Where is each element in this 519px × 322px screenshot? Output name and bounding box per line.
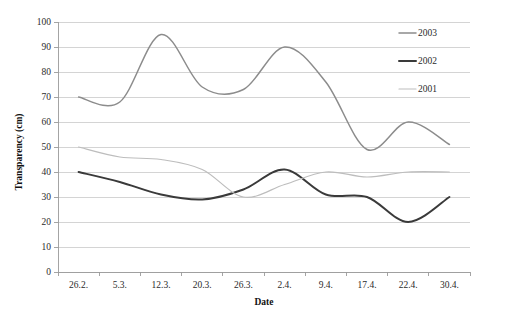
series-group bbox=[79, 34, 450, 222]
x-tick-label: 20.3. bbox=[193, 280, 212, 290]
series-line-2003 bbox=[79, 34, 450, 150]
y-tick-label: 80 bbox=[42, 67, 52, 77]
x-tick-label: 22.4. bbox=[399, 280, 418, 290]
y-tick-marks-group bbox=[54, 22, 58, 272]
x-tick-label: 5.3. bbox=[113, 280, 127, 290]
x-tick-label: 12.3. bbox=[152, 280, 171, 290]
gridlines-group bbox=[58, 22, 470, 272]
y-axis-title: Transparency (cm) bbox=[14, 114, 25, 191]
x-tick-labels-group: 26.2.5.3.12.3.20.3.26.3.2.4.9.4.17.4.22.… bbox=[69, 280, 459, 290]
y-tick-label: 60 bbox=[42, 117, 52, 127]
legend-label-2002: 2002 bbox=[418, 56, 437, 66]
y-tick-label: 50 bbox=[42, 142, 52, 152]
y-tick-label: 20 bbox=[42, 217, 52, 227]
y-tick-label: 10 bbox=[42, 242, 52, 252]
x-tick-label: 26.2. bbox=[69, 280, 88, 290]
legend-label-2001: 2001 bbox=[418, 84, 437, 94]
x-axis-title: Date bbox=[255, 297, 274, 307]
x-tick-label: 9.4. bbox=[319, 280, 333, 290]
y-tick-label: 40 bbox=[42, 167, 52, 177]
legend-label-2003: 2003 bbox=[418, 28, 437, 38]
x-tick-label: 26.3. bbox=[234, 280, 253, 290]
y-tick-label: 0 bbox=[46, 267, 51, 277]
x-axis-group bbox=[58, 272, 470, 276]
y-tick-label: 30 bbox=[42, 192, 52, 202]
y-tick-label: 90 bbox=[42, 42, 52, 52]
legend-group: 200320022001 bbox=[399, 28, 437, 94]
x-tick-label: 30.4. bbox=[440, 280, 459, 290]
y-tick-label: 70 bbox=[42, 92, 52, 102]
y-tick-label: 100 bbox=[37, 17, 52, 27]
series-line-2002 bbox=[79, 169, 450, 222]
x-tick-label: 2.4. bbox=[277, 280, 291, 290]
line-chart: 0102030405060708090100 26.2.5.3.12.3.20.… bbox=[0, 0, 519, 322]
x-tick-label: 17.4. bbox=[358, 280, 377, 290]
chart-container: 0102030405060708090100 26.2.5.3.12.3.20.… bbox=[0, 0, 519, 322]
y-tick-labels-group: 0102030405060708090100 bbox=[37, 17, 52, 277]
